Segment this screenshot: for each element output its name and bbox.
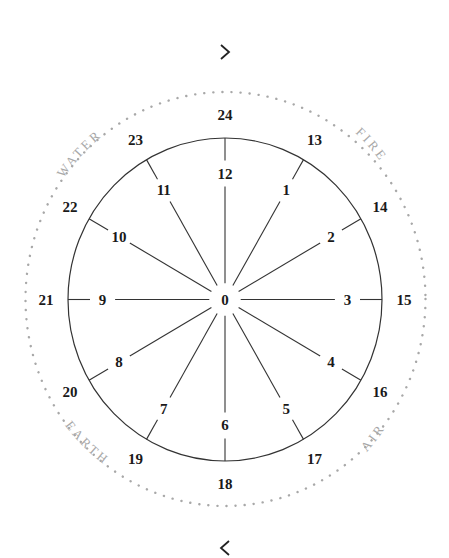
inner-number-label: 5 — [282, 401, 290, 417]
inner-number-label: 8 — [115, 354, 123, 370]
inner-number-label: 3 — [344, 292, 352, 308]
spoke-line — [233, 313, 280, 397]
spoke-line — [233, 202, 280, 286]
element-label-earth: EARTH — [62, 418, 113, 468]
spoke-line — [130, 243, 212, 291]
outer-number-label: 20 — [62, 384, 77, 400]
spoke-line — [239, 243, 321, 291]
element-label-fire: FIRE — [353, 124, 391, 165]
outer-number-label: 15 — [396, 292, 411, 308]
outer-number-label: 23 — [128, 132, 143, 148]
inner-number-label: 2 — [327, 229, 335, 245]
spoke-line — [130, 308, 212, 356]
spoke-line — [147, 420, 158, 440]
outer-number-label: 13 — [307, 132, 322, 148]
outer-number-label: 24 — [218, 107, 234, 123]
elements-wheel-diagram: 122411321431541651761871982092110221123 … — [0, 0, 449, 558]
spoke-line — [170, 313, 217, 397]
spoke-line — [89, 219, 108, 230]
spoke-line — [147, 160, 158, 180]
spoke-line — [89, 369, 108, 380]
spoke-line — [342, 369, 361, 380]
chevron-left-icon — [218, 538, 232, 558]
outer-number-label: 21 — [39, 292, 54, 308]
inner-number-label: 1 — [282, 182, 290, 198]
inner-number-label: 10 — [111, 229, 126, 245]
outer-number-label: 17 — [307, 451, 323, 467]
outer-number-label: 19 — [128, 451, 143, 467]
inner-number-label: 11 — [157, 182, 171, 198]
spoke-line — [293, 420, 304, 440]
spoke-line — [170, 202, 217, 286]
inner-number-label: 4 — [327, 354, 335, 370]
outer-number-label: 16 — [373, 384, 389, 400]
inner-number-label: 12 — [218, 166, 233, 182]
spoke-line — [239, 308, 321, 356]
previous-button[interactable] — [0, 538, 449, 558]
spoke-line — [342, 219, 361, 230]
outer-number-label: 14 — [373, 199, 389, 215]
inner-number-label: 6 — [221, 417, 229, 433]
outer-number-label: 18 — [218, 476, 233, 492]
element-label-water: WATER — [54, 126, 105, 180]
inner-number-label: 7 — [160, 401, 168, 417]
inner-number-label: 9 — [99, 292, 107, 308]
center-label: 0 — [221, 292, 229, 308]
outer-number-label: 22 — [62, 199, 77, 215]
spoke-line — [293, 160, 304, 180]
